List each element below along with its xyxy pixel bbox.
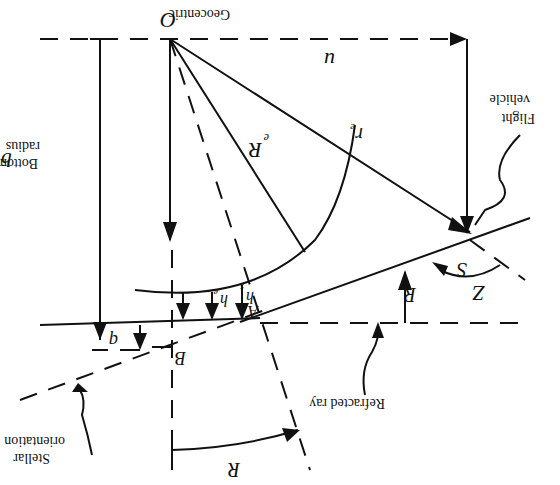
label-B: B	[175, 348, 186, 368]
refraction-geometry-diagram: O Geocentric u radius Bottom b R e r e v…	[0, 0, 560, 485]
label-geocentric: Geocentric	[169, 7, 230, 22]
label-re-sub: e	[350, 122, 355, 134]
u-arrow-head	[450, 32, 467, 46]
q-arrow	[133, 333, 147, 350]
refracted-ray-line	[240, 218, 530, 322]
flight-vehicle-callout	[475, 135, 520, 225]
label-Re: R	[248, 138, 263, 163]
label-R-right: R	[404, 284, 417, 306]
stellar-callout-arrow	[72, 383, 88, 392]
label-S: S	[457, 259, 467, 281]
stellar-callout	[80, 390, 92, 455]
Z-arc	[440, 265, 500, 276]
label-R-bottom: R	[228, 459, 241, 481]
label-stellar: Stellar	[13, 451, 50, 466]
label-re: r	[355, 124, 363, 146]
label-Re-sub: e	[263, 131, 269, 145]
vehicle-ray-line	[170, 39, 470, 232]
label-orientation: orientation	[4, 434, 65, 449]
Z-arrow	[432, 262, 448, 276]
label-hs: h	[246, 289, 254, 306]
refracted-ray-callout-arrow	[372, 322, 384, 338]
label-Z: Z	[472, 281, 485, 306]
R-bottom-arrow	[282, 428, 300, 442]
label-flight: Flight	[501, 111, 535, 126]
label-he: h	[220, 292, 228, 309]
R-bottom-arc	[172, 430, 298, 450]
he-arrow	[205, 303, 219, 320]
label-u: u	[324, 48, 335, 73]
label-refracted-ray: Refracted ray	[309, 396, 385, 411]
label-hs-sub: s	[240, 282, 244, 293]
label-vehicle: vehicle	[490, 92, 530, 107]
bottom-radius-arrow	[93, 322, 107, 340]
label-b: b	[1, 148, 12, 173]
o-vertical-arrow	[163, 222, 177, 242]
label-he-sub: e	[213, 287, 218, 298]
he-left-arrow	[176, 303, 190, 320]
label-q: q	[109, 331, 118, 351]
Re-line	[170, 39, 305, 252]
dashed-ray-line	[170, 39, 310, 470]
